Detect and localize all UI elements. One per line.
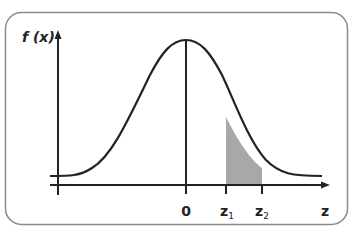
diagram-frame xyxy=(6,13,348,225)
x-axis-label: z xyxy=(321,203,329,219)
normal-distribution-diagram: f (x) 0 z1 z2 z xyxy=(0,0,360,234)
y-axis-label: f (x) xyxy=(22,29,55,45)
tick-label-zero: 0 xyxy=(181,203,191,219)
